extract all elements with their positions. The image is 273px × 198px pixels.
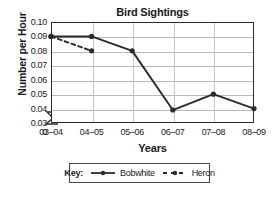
legend-swatch-dashed-icon <box>162 168 188 178</box>
chart-title: Bird Sightings <box>45 6 260 18</box>
legend-label-bobwhite: Bobwhite <box>120 168 155 178</box>
x-axis-tick-label: 06–07 <box>150 127 196 137</box>
x-axis-tick-label: 04–05 <box>69 127 115 137</box>
series-layer <box>51 22 254 123</box>
y-axis-tick-label: 0.06 <box>21 76 47 85</box>
y-axis-tick-labels: 0.100.090.080.070.060.050.040.030 <box>19 0 47 198</box>
x-axis-tick-label: 03–04 <box>28 127 74 137</box>
y-axis-tick-label: 0.07 <box>21 61 47 70</box>
data-point-bobwhite <box>170 107 175 112</box>
legend-entry-bobwhite: Bobwhite <box>90 168 155 178</box>
x-axis-tick-label: 08–09 <box>231 127 273 137</box>
y-axis-tick-label: 0.08 <box>21 47 47 56</box>
x-axis-title: Years <box>45 142 260 154</box>
data-point-heron <box>89 48 94 53</box>
x-axis-tick-label: 07–08 <box>190 127 236 137</box>
y-axis-tick-label: 0.09 <box>21 32 47 41</box>
data-point-bobwhite <box>251 106 256 111</box>
legend-entry-heron: Heron <box>162 168 215 178</box>
data-point-bobwhite <box>130 48 135 53</box>
data-point-bobwhite <box>211 92 216 97</box>
y-axis-tick-label: 0.05 <box>21 90 47 99</box>
x-axis-tick-label: 05–06 <box>109 127 155 137</box>
x-axis-tick-labels: 03–0404–0505–0606–0707–0808–09 <box>51 127 254 141</box>
legend-swatch-solid-icon <box>90 168 116 178</box>
y-axis-tick-label: 0.10 <box>21 18 47 27</box>
legend-label-heron: Heron <box>192 168 215 178</box>
data-point-bobwhite <box>89 34 94 39</box>
legend-title: Key: <box>64 168 83 178</box>
series-line-heron <box>51 36 92 50</box>
chart-figure: Bird Sightings Number per Hour 0.100.090… <box>0 0 273 198</box>
chart-legend: Key: Bobwhite Heron <box>69 163 210 183</box>
data-point-heron <box>48 34 53 39</box>
